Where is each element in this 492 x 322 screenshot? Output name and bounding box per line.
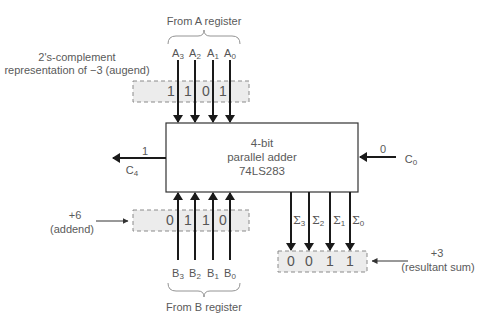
output-label-sum0: Σ0 <box>352 215 364 230</box>
sum-description-line2: (resultant sum) <box>401 261 474 274</box>
adder-label-line1: 4-bit <box>166 136 358 150</box>
addend-description-line2: (addend) <box>50 223 94 236</box>
carry-in-value: 0 <box>380 143 386 156</box>
augend-bit-0: 1 <box>219 83 227 99</box>
carry-out-label: C4 <box>126 164 138 180</box>
input-label-b3: B3 <box>172 267 184 283</box>
augend-bit-1: 0 <box>202 83 210 99</box>
input-label-a2: A2 <box>189 47 201 63</box>
adder-label-line2: parallel adder <box>166 150 358 164</box>
b-register-brace <box>168 283 240 297</box>
output-label-sum1: Σ1 <box>333 215 345 230</box>
a-register-title: From A register <box>167 15 242 28</box>
addend-bit-2: 1 <box>184 212 192 228</box>
addend-bit-1: 1 <box>202 212 210 228</box>
carry-out-value: 1 <box>142 145 148 158</box>
addend-bit-3: 0 <box>166 212 174 228</box>
a-register-brace <box>168 30 240 44</box>
output-label-sum3: Σ3 <box>293 215 305 230</box>
adder-label-line3: 74LS283 <box>166 164 358 178</box>
input-label-a0: A0 <box>224 47 236 63</box>
output-label-sum2: Σ2 <box>312 215 324 230</box>
augend-description-line2: representation of −3 (augend) <box>4 64 149 77</box>
augend-bit-3: 1 <box>167 83 175 99</box>
sum-bit-0: 1 <box>346 253 354 269</box>
addend-description-line1: +6 <box>69 209 82 222</box>
augend-description-line1: 2's-complement <box>38 51 115 64</box>
parallel-adder-diagram: From A register A3 A2 A1 A0 2's-compleme… <box>0 0 492 322</box>
input-label-a3: A3 <box>172 47 184 63</box>
sum-bit-2: 0 <box>305 253 313 269</box>
input-label-b0: B0 <box>224 267 236 283</box>
sum-description-line1: +3 <box>431 247 444 260</box>
sum-bit-3: 0 <box>287 253 295 269</box>
sum-bit-1: 1 <box>326 253 334 269</box>
carry-in-label: C0 <box>405 153 417 169</box>
augend-bit-2: 1 <box>184 83 192 99</box>
b-register-title: From B register <box>166 301 242 314</box>
input-label-b1: B1 <box>207 267 219 283</box>
adder-label: 4-bit parallel adder 74LS283 <box>166 136 358 178</box>
input-label-b2: B2 <box>189 267 201 283</box>
addend-bit-0: 0 <box>219 212 227 228</box>
input-label-a1: A1 <box>207 47 219 63</box>
